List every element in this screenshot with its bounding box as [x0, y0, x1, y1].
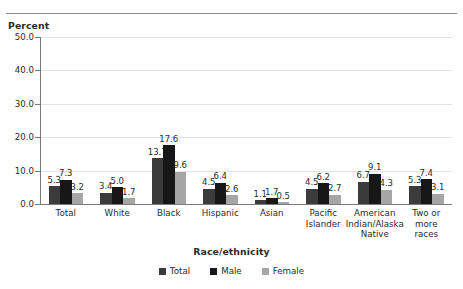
x-axis-line	[40, 204, 452, 205]
y-axis-tick-mark	[35, 104, 40, 105]
legend-label: Total	[170, 266, 190, 276]
bar-group: 4.56.22.7	[306, 37, 341, 204]
bar-total-total	[49, 186, 61, 204]
bar-two-or-more-races-total	[409, 186, 421, 204]
y-axis-tick-mark	[35, 37, 40, 38]
y-axis-tick-label: 50.0	[0, 32, 34, 42]
bar-group: 5.37.43.1	[409, 37, 444, 204]
bar-value-label: 0.5	[272, 191, 296, 201]
bar-value-label: 5.0	[106, 176, 130, 186]
bar-black-male	[163, 145, 175, 204]
y-axis-tick-label: 40.0	[0, 65, 34, 75]
bar-group: 1.11.70.5	[255, 37, 290, 204]
bar-american-indian-alaska-native-total	[358, 182, 370, 204]
y-axis-tick-label: 0.0	[0, 199, 34, 209]
y-axis-tick-mark	[35, 171, 40, 172]
y-axis-tick-mark	[35, 137, 40, 138]
legend-swatch-icon	[159, 268, 166, 275]
bar-hispanic-total	[203, 189, 215, 204]
legend-label: Male	[221, 266, 242, 276]
bar-value-label: 2.6	[220, 184, 244, 194]
bar-group: 13.717.69.6	[152, 37, 187, 204]
bar-two-or-more-races-female	[432, 194, 444, 204]
header-divider	[6, 13, 457, 14]
y-axis-tick-label: 20.0	[0, 132, 34, 142]
y-axis-tick-mark	[35, 204, 40, 205]
legend-item-male[interactable]: Male	[210, 266, 242, 276]
y-axis-tick-label: 10.0	[0, 166, 34, 176]
bar-value-label: 2.7	[323, 183, 347, 193]
plot-area: 5.37.33.23.45.01.713.717.69.64.56.42.61.…	[40, 37, 452, 204]
x-axis-label-line: more	[393, 219, 461, 230]
bar-value-label: 7.4	[415, 168, 439, 178]
bar-group: 3.45.01.7	[100, 37, 135, 204]
bar-value-label: 1.7	[117, 187, 141, 197]
bar-black-total	[152, 158, 164, 204]
bar-hispanic-female	[226, 195, 238, 204]
bar-total-female	[72, 193, 84, 204]
bar-value-label: 6.4	[209, 171, 233, 181]
bar-white-total	[100, 193, 112, 204]
bar-value-label: 6.2	[312, 172, 336, 182]
bar-value-label: 4.3	[375, 178, 399, 188]
y-axis-line	[40, 37, 41, 204]
legend-item-female[interactable]: Female	[262, 266, 304, 276]
x-axis-label-line: races	[393, 229, 461, 240]
legend: TotalMaleFemale	[0, 266, 463, 276]
bar-american-indian-alaska-native-female	[381, 190, 393, 204]
bar-value-label: 3.1	[426, 182, 450, 192]
bar-pacific-islander-total	[306, 189, 318, 204]
y-axis-tick-label: 30.0	[0, 99, 34, 109]
bar-value-label: 7.3	[54, 168, 78, 178]
bar-group: 5.37.33.2	[49, 37, 84, 204]
x-axis-label-line: Two or	[393, 208, 461, 219]
bar-value-label: 9.6	[169, 160, 193, 170]
legend-label: Female	[273, 266, 304, 276]
x-axis-category-label: Two ormoreraces	[393, 208, 461, 240]
bar-value-label: 3.2	[66, 182, 90, 192]
bar-group: 4.56.42.6	[203, 37, 238, 204]
bar-black-female	[175, 172, 187, 204]
bar-value-label: 9.1	[363, 162, 387, 172]
y-axis-tick-mark	[35, 70, 40, 71]
legend-swatch-icon	[262, 268, 269, 275]
legend-swatch-icon	[210, 268, 217, 275]
legend-item-total[interactable]: Total	[159, 266, 190, 276]
bar-group: 6.79.14.3	[358, 37, 393, 204]
bar-pacific-islander-female	[329, 195, 341, 204]
bar-value-label: 17.6	[157, 134, 181, 144]
x-axis-title: Race/ethnicity	[0, 246, 463, 257]
